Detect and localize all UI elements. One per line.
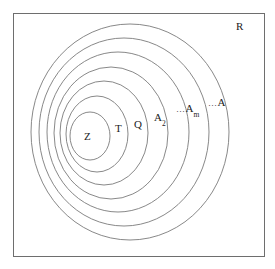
figure-canvas: Z T Q A2 …Am …A R bbox=[0, 0, 275, 269]
set-label-R: R bbox=[236, 21, 243, 32]
set-label-Am: …Am bbox=[176, 103, 199, 117]
set-label-T: T bbox=[115, 123, 122, 134]
set-label-A: …A bbox=[208, 97, 225, 108]
set-label-A-ellipsis: … bbox=[208, 98, 218, 108]
set-label-T-text: T bbox=[115, 122, 122, 134]
set-label-Am-subscript: m bbox=[193, 110, 199, 119]
set-label-A2: A2 bbox=[154, 112, 166, 126]
set-label-Z-text: Z bbox=[84, 130, 91, 142]
set-label-Q: Q bbox=[134, 119, 142, 130]
set-label-R-text: R bbox=[236, 20, 243, 32]
set-label-A2-base: A bbox=[154, 111, 162, 123]
set-label-Z: Z bbox=[84, 131, 91, 142]
set-label-Q-text: Q bbox=[134, 118, 142, 130]
set-label-Am-ellipsis: … bbox=[176, 104, 186, 114]
diagram-svg bbox=[0, 0, 275, 269]
set-label-A2-subscript: 2 bbox=[162, 119, 166, 128]
set-label-A-base: A bbox=[218, 96, 226, 108]
ambient-region-frame bbox=[14, 14, 265, 257]
